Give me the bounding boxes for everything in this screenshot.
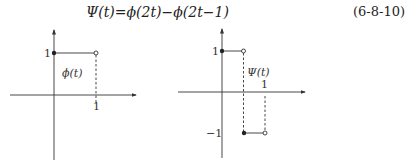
closed-point [242,131,246,135]
closed-point [220,49,224,53]
psi-label: Ψ(t) [247,66,270,79]
x-tick-1: 1 [93,100,100,113]
y-tick-1: 1 [212,45,219,58]
phi-chart: 1 1 ϕ(t) [10,30,136,160]
open-point [94,51,98,55]
open-point [263,131,267,135]
y-tick-minus-1: −1 [206,127,222,140]
x-tick-1: 1 [261,78,268,91]
psi-chart: 1 −1 1 Ψ(t) [178,29,305,158]
phi-label: ϕ(t) [62,67,83,80]
figures: 1 1 ϕ(t) 1 −1 1 Ψ(t) [0,0,417,164]
closed-point [52,51,56,55]
y-tick-1: 1 [44,47,51,60]
open-point [242,49,246,53]
